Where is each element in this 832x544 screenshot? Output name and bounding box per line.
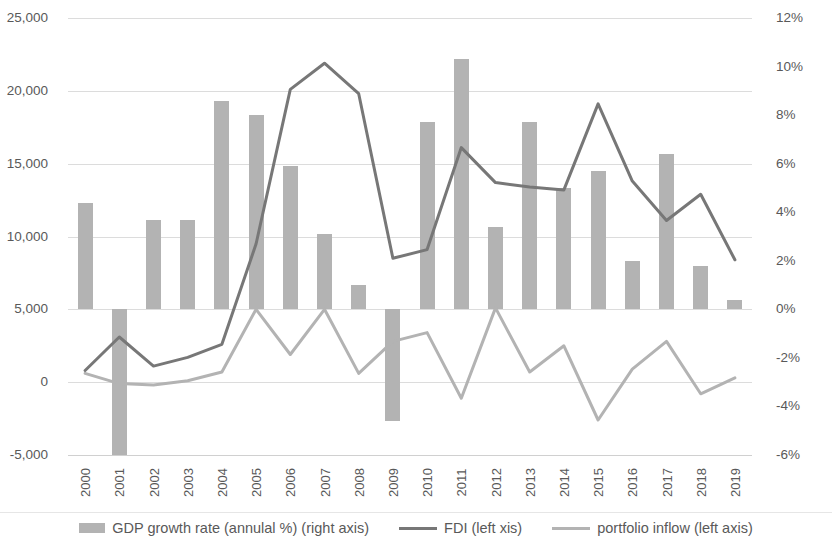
legend-label: GDP growth rate (annulal %) (right axis) xyxy=(112,520,369,536)
right-axis-tick-label: 4% xyxy=(776,205,796,219)
left-axis-labels: -5,00005,00010,00015,00020,00025,000 xyxy=(0,0,62,473)
right-axis-tick-label: -6% xyxy=(776,448,800,462)
plot-area xyxy=(68,18,752,455)
right-axis-tick-label: -4% xyxy=(776,399,800,413)
line-series-layer xyxy=(68,18,752,455)
x-axis-tick-label: 2011 xyxy=(455,459,468,507)
legend-line-swatch-icon xyxy=(552,527,590,530)
x-axis-tick-label: 2002 xyxy=(147,459,160,507)
legend-bar-swatch-icon xyxy=(79,523,105,533)
x-axis-tick-label: 2003 xyxy=(181,459,194,507)
left-axis-tick-label: 15,000 xyxy=(7,157,48,171)
legend-label: FDI (left xis) xyxy=(444,520,522,536)
left-axis-tick-label: 20,000 xyxy=(7,84,48,98)
legend-item[interactable]: GDP growth rate (annulal %) (right axis) xyxy=(79,520,369,536)
legend-item[interactable]: portfolio inflow (left axis) xyxy=(552,520,753,536)
left-axis-tick-label: 10,000 xyxy=(7,230,48,244)
left-axis-tick-label: 25,000 xyxy=(7,11,48,25)
x-axis-tick-label: 2015 xyxy=(592,459,605,507)
x-axis-tick-label: 2001 xyxy=(113,459,126,507)
left-axis-tick-label: 5,000 xyxy=(14,302,48,316)
line-portfolio-inflow xyxy=(85,308,735,420)
x-axis-tick-label: 2000 xyxy=(79,459,92,507)
x-axis-tick-label: 2006 xyxy=(284,459,297,507)
x-axis-tick-label: 2005 xyxy=(250,459,263,507)
x-axis-line xyxy=(68,455,752,456)
x-axis-tick-label: 2012 xyxy=(489,459,502,507)
right-axis-tick-label: -2% xyxy=(776,351,800,365)
chart-legend: GDP growth rate (annulal %) (right axis)… xyxy=(0,512,832,544)
x-axis-tick-label: 2017 xyxy=(660,459,673,507)
x-axis-tick-label: 2013 xyxy=(523,459,536,507)
x-axis-labels: 2000200120022003200420052006200720082009… xyxy=(68,458,752,508)
right-axis-tick-label: 6% xyxy=(776,157,796,171)
right-axis-tick-label: 10% xyxy=(776,60,803,74)
x-axis-tick-label: 2016 xyxy=(626,459,639,507)
x-axis-tick-label: 2007 xyxy=(318,459,331,507)
x-axis-tick-label: 2018 xyxy=(694,459,707,507)
left-axis-tick-label: -5,000 xyxy=(10,448,48,462)
left-axis-tick-label: 0 xyxy=(40,375,48,389)
right-axis-tick-label: 2% xyxy=(776,254,796,268)
right-axis-tick-label: 12% xyxy=(776,11,803,25)
right-axis-labels: -6%-4%-2%0%2%4%6%8%10%12% xyxy=(762,0,832,473)
right-axis-tick-label: 8% xyxy=(776,108,796,122)
chart-container: -5,00005,00010,00015,00020,00025,000 -6%… xyxy=(0,0,832,544)
line-fdi xyxy=(85,63,735,370)
x-axis-tick-label: 2014 xyxy=(557,459,570,507)
x-axis-tick-label: 2010 xyxy=(421,459,434,507)
legend-line-swatch-icon xyxy=(399,527,437,530)
x-axis-tick-label: 2004 xyxy=(215,459,228,507)
legend-label: portfolio inflow (left axis) xyxy=(597,520,753,536)
x-axis-tick-label: 2008 xyxy=(352,459,365,507)
legend-item[interactable]: FDI (left xis) xyxy=(399,520,522,536)
x-axis-tick-label: 2009 xyxy=(386,459,399,507)
right-axis-tick-label: 0% xyxy=(776,302,796,316)
x-axis-tick-label: 2019 xyxy=(728,459,741,507)
